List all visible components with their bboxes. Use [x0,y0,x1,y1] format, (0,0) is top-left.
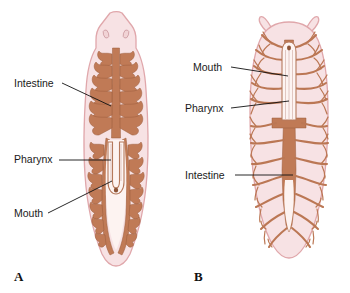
panel-a-mouth [114,187,118,192]
panel-b-label-pharynx: Pharynx [185,102,224,114]
figure-root: Intestine Pharynx Mouth A [0,0,350,293]
planarian-figure: Intestine Pharynx Mouth A [0,0,350,293]
panel-a-label-mouth: Mouth [14,207,43,219]
panel-a-label-pharynx: Pharynx [14,153,53,165]
panel-b-label-intestine: Intestine [185,169,225,181]
panel-a: Intestine Pharynx Mouth A [14,12,148,285]
panel-a-intestine [88,48,144,255]
panel-b-letter: B [194,269,203,284]
panel-a-label-intestine: Intestine [14,77,54,89]
panel-b-pharynx [282,42,296,120]
panel-b-mouth [287,46,291,51]
panel-a-letter: A [14,269,24,284]
panel-b-label-mouth: Mouth [193,61,222,73]
panel-b: Mouth Pharynx Intestine B [185,17,328,284]
